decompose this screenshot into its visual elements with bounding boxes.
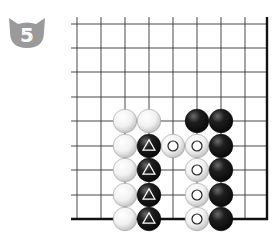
white-stone <box>161 134 185 158</box>
circle-mark-icon <box>168 141 178 151</box>
white-stone <box>137 109 161 133</box>
white-stone <box>185 183 209 207</box>
circle-mark-icon <box>192 141 202 151</box>
black-stone <box>137 207 161 231</box>
white-stone <box>185 158 209 182</box>
black-stone <box>209 158 233 182</box>
black-stone <box>137 183 161 207</box>
white-stone <box>185 207 209 231</box>
white-stone <box>113 183 137 207</box>
board-grid <box>71 17 268 220</box>
white-stone <box>113 109 137 133</box>
black-stone <box>137 134 161 158</box>
white-stone <box>113 158 137 182</box>
black-stone <box>209 134 233 158</box>
black-stone <box>137 158 161 182</box>
white-stone <box>113 207 137 231</box>
circle-mark-icon <box>192 165 202 175</box>
circle-mark-icon <box>192 190 202 200</box>
black-stone <box>209 207 233 231</box>
black-stone <box>209 183 233 207</box>
go-board <box>0 0 272 238</box>
black-stone <box>209 109 233 133</box>
white-stone <box>185 134 209 158</box>
white-stone <box>113 134 137 158</box>
circle-mark-icon <box>192 214 202 224</box>
black-stone <box>185 109 209 133</box>
